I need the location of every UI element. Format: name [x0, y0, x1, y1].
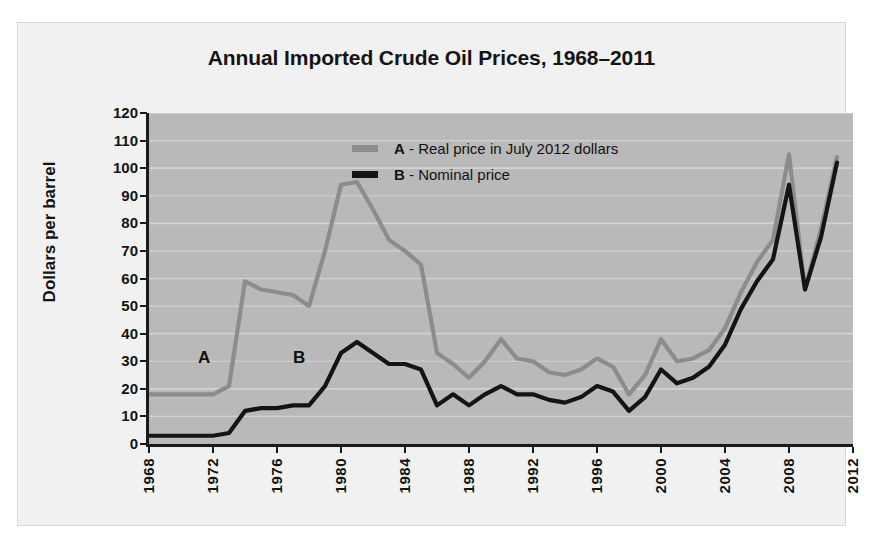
chart-figure: Annual Imported Crude Oil Prices, 1968–2…: [0, 0, 893, 551]
x-tick-mark: [532, 447, 534, 453]
y-tick-label: 0: [92, 436, 138, 451]
y-tick-mark: [140, 305, 147, 307]
x-tick-label: 1976: [268, 458, 285, 493]
x-tick-mark: [404, 447, 406, 453]
y-tick-label: 50: [92, 298, 138, 313]
y-tick-mark: [140, 443, 147, 445]
y-tick-mark: [140, 388, 147, 390]
legend-sep-a: -: [405, 140, 418, 157]
y-tick-mark: [140, 222, 147, 224]
x-tick-label: 2004: [716, 458, 733, 493]
x-tick-label: 1992: [524, 458, 541, 493]
x-tick-mark: [468, 447, 470, 453]
y-tick-label: 110: [92, 133, 138, 148]
x-tick-label: 1996: [588, 458, 605, 493]
legend-sep-b: -: [405, 166, 418, 183]
x-tick-mark: [340, 447, 342, 453]
y-tick-mark: [140, 415, 147, 417]
y-tick-label: 10: [92, 408, 138, 423]
y-tick-label: 70: [92, 243, 138, 258]
y-tick-mark: [140, 167, 147, 169]
y-tick-mark: [140, 360, 147, 362]
legend-item-a: A - Real price in July 2012 dollars: [352, 136, 672, 160]
legend-key-b: B: [394, 166, 405, 183]
x-tick-mark: [788, 447, 790, 453]
y-tick-mark: [140, 195, 147, 197]
y-tick-mark: [140, 112, 147, 114]
y-axis-title: Dollars per barrel: [40, 122, 60, 342]
legend-swatch-a: [352, 145, 378, 152]
x-tick-label: 1984: [396, 458, 413, 493]
legend-key-a: A: [394, 140, 405, 157]
y-tick-mark: [140, 278, 147, 280]
legend-label-a: A - Real price in July 2012 dollars: [394, 140, 618, 157]
series-line-b: [149, 163, 837, 436]
x-tick-mark: [276, 447, 278, 453]
legend: A - Real price in July 2012 dollars B - …: [352, 136, 672, 188]
x-tick-mark: [596, 447, 598, 453]
legend-desc-a: Real price in July 2012 dollars: [418, 140, 618, 157]
x-tick-label: 1968: [140, 458, 157, 493]
x-axis-line: [146, 444, 853, 447]
series-line-a: [149, 154, 837, 394]
series-annotation-b: B: [293, 348, 305, 368]
y-tick-mark: [140, 333, 147, 335]
legend-item-b: B - Nominal price: [352, 162, 672, 186]
x-tick-label: 1972: [204, 458, 221, 493]
x-tick-label: 2008: [780, 458, 797, 493]
x-tick-label: 2000: [652, 458, 669, 493]
y-tick-label: 20: [92, 381, 138, 396]
x-tick-mark: [724, 447, 726, 453]
y-tick-label: 40: [92, 326, 138, 341]
legend-label-b: B - Nominal price: [394, 166, 510, 183]
y-tick-mark: [140, 250, 147, 252]
y-tick-mark: [140, 140, 147, 142]
x-tick-mark: [212, 447, 214, 453]
y-tick-label: 90: [92, 188, 138, 203]
legend-swatch-b: [352, 171, 378, 178]
x-tick-label: 1980: [332, 458, 349, 493]
chart-title: Annual Imported Crude Oil Prices, 1968–2…: [17, 46, 846, 70]
y-tick-label: 80: [92, 215, 138, 230]
series-lines: [149, 154, 837, 435]
x-tick-label: 2012: [844, 458, 861, 493]
x-tick-label: 1988: [460, 458, 477, 493]
series-annotation-a: A: [198, 348, 210, 368]
y-axis-tick-labels: 0102030405060708090100110120: [92, 0, 138, 551]
y-tick-label: 120: [92, 105, 138, 120]
y-tick-label: 60: [92, 271, 138, 286]
x-tick-mark: [852, 447, 854, 453]
y-tick-label: 30: [92, 353, 138, 368]
x-tick-mark: [660, 447, 662, 453]
legend-desc-b: Nominal price: [418, 166, 510, 183]
x-tick-mark: [148, 447, 150, 453]
y-tick-label: 100: [92, 160, 138, 175]
